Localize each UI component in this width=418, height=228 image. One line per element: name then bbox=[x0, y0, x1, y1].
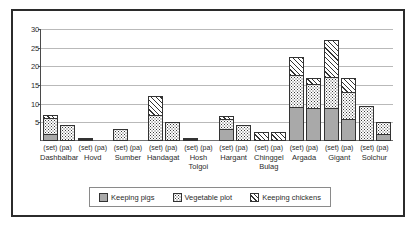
x-axis-group: (set)(pa)Argada bbox=[286, 143, 321, 152]
bar-segment bbox=[306, 84, 321, 108]
legend-item: Keeping pigs bbox=[99, 193, 154, 202]
bar-segment bbox=[183, 139, 198, 141]
bar bbox=[219, 116, 234, 141]
bar bbox=[324, 40, 339, 141]
bar bbox=[165, 122, 180, 141]
x-axis-sublabel: (set) bbox=[43, 143, 57, 152]
x-axis-sublabel: (pa) bbox=[95, 143, 107, 152]
y-axis-tickmark bbox=[38, 85, 41, 86]
x-axis-group: (set)(pa)ChinggelBulag bbox=[251, 143, 286, 152]
x-axis-sublabel: (pa) bbox=[200, 143, 212, 152]
bar-segment bbox=[341, 78, 356, 91]
plot-area-wrapper: 51015202530 (set)(pa)Dashbalbar(set)(pa)… bbox=[13, 11, 403, 215]
x-axis-group-label: Handagat bbox=[146, 153, 181, 162]
bar-segment bbox=[324, 77, 339, 108]
bar-segment bbox=[113, 129, 128, 141]
bar-segment bbox=[219, 119, 234, 129]
gridline bbox=[41, 85, 393, 86]
x-axis-group-label: Hovd bbox=[75, 153, 110, 162]
x-axis-sublabels: (set)(pa) bbox=[40, 143, 75, 152]
dotted-swatch bbox=[173, 193, 182, 202]
bar bbox=[78, 138, 93, 141]
x-axis-group-label: Gigant bbox=[322, 153, 357, 162]
legend-label: Keeping pigs bbox=[111, 193, 154, 202]
x-axis-sublabel: (pa) bbox=[306, 143, 318, 152]
bar-segment bbox=[60, 125, 75, 141]
y-axis-tickmark bbox=[38, 29, 41, 30]
x-axis-sublabel: (set) bbox=[360, 143, 374, 152]
bar-segment bbox=[324, 108, 339, 141]
x-axis-sublabel: (pa) bbox=[59, 143, 71, 152]
x-axis-group-label: Argada bbox=[286, 153, 321, 162]
legend-label: Keeping chickens bbox=[262, 193, 321, 202]
x-axis-sublabels: (set)(pa) bbox=[251, 143, 286, 152]
x-axis-tick-labels: (set)(pa)Dashbalbar(set)(pa)Hovd(set)(pa… bbox=[40, 143, 392, 185]
bar bbox=[113, 129, 128, 141]
hatch-swatch bbox=[250, 193, 259, 202]
y-axis-tickmark bbox=[38, 66, 41, 67]
bar-segment bbox=[359, 106, 374, 141]
legend-item: Vegetable plot bbox=[173, 193, 233, 202]
y-axis-tickmark bbox=[38, 48, 41, 49]
bar-segment bbox=[341, 92, 356, 119]
bar bbox=[43, 115, 58, 141]
bar bbox=[60, 125, 75, 141]
legend-label: Vegetable plot bbox=[185, 193, 233, 202]
x-axis-sublabel: (set) bbox=[290, 143, 304, 152]
x-axis-sublabel: (pa) bbox=[165, 143, 177, 152]
bar bbox=[183, 138, 198, 141]
x-axis-sublabels: (set)(pa) bbox=[110, 143, 145, 152]
x-axis-sublabels: (set)(pa) bbox=[357, 143, 392, 152]
x-axis-sublabel: (set) bbox=[184, 143, 198, 152]
x-axis-sublabel: (pa) bbox=[271, 143, 283, 152]
x-axis-sublabels: (set)(pa) bbox=[146, 143, 181, 152]
x-axis-sublabel: (pa) bbox=[376, 143, 388, 152]
x-axis-group: (set)(pa)Dashbalbar bbox=[40, 143, 75, 152]
y-axis-tick-labels: 51015202530 bbox=[17, 29, 39, 141]
bar-segment bbox=[219, 129, 234, 141]
bar bbox=[359, 106, 374, 141]
bar bbox=[306, 78, 321, 141]
x-axis-sublabel: (set) bbox=[255, 143, 269, 152]
bar bbox=[271, 132, 286, 141]
bar bbox=[289, 57, 304, 141]
x-axis-group-label: ChinggelBulag bbox=[251, 153, 286, 171]
y-axis-tickmark bbox=[38, 104, 41, 105]
x-axis-group-label: HoshTolgoi bbox=[181, 153, 216, 171]
gridline bbox=[41, 122, 393, 123]
chart-legend: Keeping pigsVegetable plotKeeping chicke… bbox=[89, 187, 331, 207]
bar-segment bbox=[254, 132, 269, 141]
x-axis-sublabel: (set) bbox=[325, 143, 339, 152]
bar-segment bbox=[165, 122, 180, 141]
bar-segment bbox=[236, 125, 251, 141]
gridline bbox=[41, 29, 393, 30]
solid-gray-swatch bbox=[99, 193, 108, 202]
bar-segment bbox=[78, 139, 93, 141]
bar-segment bbox=[43, 118, 58, 134]
gridline bbox=[41, 66, 393, 67]
x-axis-group-label: Dashbalbar bbox=[40, 153, 75, 162]
x-axis-sublabel: (pa) bbox=[130, 143, 142, 152]
bar-segment bbox=[324, 40, 339, 77]
x-axis-group: (set)(pa)Gigant bbox=[322, 143, 357, 152]
bar-segment bbox=[341, 119, 356, 141]
bar-segment bbox=[376, 134, 391, 141]
x-axis-sublabel: (set) bbox=[219, 143, 233, 152]
x-axis-sublabels: (set)(pa) bbox=[75, 143, 110, 152]
x-axis-group-label: Hargant bbox=[216, 153, 251, 162]
bar-segment bbox=[306, 108, 321, 141]
bar-segment bbox=[43, 134, 58, 141]
gridline bbox=[41, 104, 393, 105]
x-axis-sublabel: (pa) bbox=[235, 143, 247, 152]
plot-area bbox=[40, 29, 393, 141]
x-axis-group: (set)(pa)Hargant bbox=[216, 143, 251, 152]
gridline bbox=[41, 48, 393, 49]
x-axis-group: (set)(pa)Sumber bbox=[110, 143, 145, 152]
bar bbox=[236, 125, 251, 141]
x-axis-group: (set)(pa)HoshTolgoi bbox=[181, 143, 216, 152]
bar bbox=[148, 96, 163, 141]
x-axis-sublabel: (set) bbox=[114, 143, 128, 152]
x-axis-sublabels: (set)(pa) bbox=[216, 143, 251, 152]
x-axis-sublabels: (set)(pa) bbox=[181, 143, 216, 152]
x-axis-group: (set)(pa)Solchur bbox=[357, 143, 392, 152]
